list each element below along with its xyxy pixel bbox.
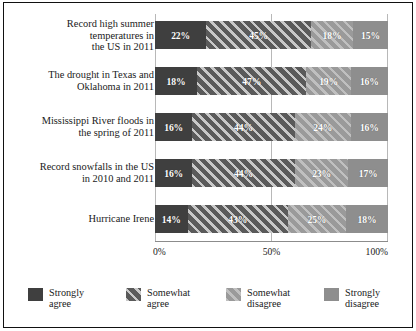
legend-swatch-icon: [324, 288, 339, 301]
bar-segment-value: 15%: [361, 30, 380, 41]
bar-segment[interactable]: 18%: [346, 205, 388, 233]
bar-segment[interactable]: 17%: [348, 159, 388, 187]
bar-row: The drought in Texas and Oklahoma in 201…: [0, 64, 416, 98]
bar-segment[interactable]: 44%: [192, 159, 295, 187]
bar-row: Mississippi River floods in the spring o…: [0, 110, 416, 144]
bar-segment-value: 14%: [162, 214, 181, 225]
bar-segment-value: 25%: [307, 214, 326, 225]
bar-segment-value: 16%: [360, 122, 379, 133]
bar-segment-value: 17%: [359, 168, 378, 179]
bar-segment[interactable]: 45%: [206, 21, 311, 49]
legend-item[interactable]: Strongly agree: [28, 287, 84, 310]
legend-label: Somewhat agree: [147, 287, 190, 310]
bar-segment-value: 19%: [319, 76, 338, 87]
figure-container: Record high summer temperatures in the U…: [0, 0, 416, 331]
bar-segment-value: 16%: [360, 76, 379, 87]
x-axis-line: [155, 241, 388, 242]
bar-segment[interactable]: 15%: [353, 21, 388, 49]
bar-segment-value: 18%: [358, 214, 377, 225]
bar-row-label: Record snowfalls in the US in 2010 and 2…: [8, 161, 154, 184]
x-tick-label: 0%: [153, 246, 166, 257]
legend-item[interactable]: Somewhat agree: [126, 287, 190, 310]
bar-row-label: Record high summer temperatures in the U…: [8, 18, 154, 53]
bar-segment[interactable]: 16%: [351, 113, 388, 141]
bar-track: 16%44%24%16%: [155, 113, 388, 141]
chart-plot-area: Record high summer temperatures in the U…: [0, 0, 416, 262]
bar-segment-value: 45%: [249, 30, 268, 41]
bar-row-label: Hurricane Irene: [8, 213, 154, 225]
legend-label: Somewhat disagree: [247, 287, 290, 310]
bar-segment[interactable]: 22%: [155, 21, 206, 49]
bar-segment[interactable]: 24%: [295, 113, 351, 141]
legend-swatch-icon: [28, 288, 43, 301]
bar-row-label: The drought in Texas and Oklahoma in 201…: [8, 69, 154, 92]
bar-segment-value: 18%: [323, 30, 342, 41]
bar-segment-value: 18%: [167, 76, 186, 87]
bar-segment[interactable]: 16%: [351, 67, 388, 95]
bar-segment[interactable]: 25%: [288, 205, 346, 233]
legend-label: Strongly disagree: [345, 287, 380, 310]
bar-track: 22%45%18%15%: [155, 21, 388, 49]
x-tick-label: 50%: [263, 246, 281, 257]
bar-segment-value: 47%: [242, 76, 261, 87]
bar-segment[interactable]: 18%: [155, 67, 197, 95]
bar-segment-value: 24%: [313, 122, 332, 133]
bar-segment-value: 44%: [234, 168, 253, 179]
bar-track: 18%47%19%16%: [155, 67, 388, 95]
bar-segment[interactable]: 44%: [192, 113, 295, 141]
legend-item[interactable]: Strongly disagree: [324, 287, 380, 310]
bar-segment-value: 23%: [312, 168, 331, 179]
legend-label: Strongly agree: [49, 287, 84, 310]
bar-row-label: Mississippi River floods in the spring o…: [8, 115, 154, 138]
bar-track: 16%44%23%17%: [155, 159, 388, 187]
legend-swatch-icon: [126, 288, 141, 301]
chart-legend: Strongly agreeSomewhat agreeSomewhat dis…: [0, 283, 416, 323]
bar-segment-value: 22%: [171, 30, 190, 41]
bar-track: 14%43%25%18%: [155, 205, 388, 233]
bar-segment-value: 44%: [234, 122, 253, 133]
bar-segment[interactable]: 16%: [155, 113, 192, 141]
bar-segment[interactable]: 43%: [188, 205, 288, 233]
bar-row: Hurricane Irene14%43%25%18%: [0, 202, 416, 236]
bar-segment[interactable]: 23%: [295, 159, 349, 187]
bar-segment-value: 43%: [228, 214, 247, 225]
bar-segment[interactable]: 18%: [311, 21, 353, 49]
x-axis-tick-labels: 0%50%100%: [0, 246, 416, 262]
bar-segment[interactable]: 14%: [155, 205, 188, 233]
bar-segment[interactable]: 16%: [155, 159, 192, 187]
bar-segment[interactable]: 47%: [197, 67, 307, 95]
bar-segment-value: 16%: [164, 122, 183, 133]
bar-segment[interactable]: 19%: [306, 67, 350, 95]
legend-swatch-icon: [226, 288, 241, 301]
legend-item[interactable]: Somewhat disagree: [226, 287, 290, 310]
x-tick-label: 100%: [366, 246, 388, 257]
bar-row: Record snowfalls in the US in 2010 and 2…: [0, 156, 416, 190]
bar-segment-value: 16%: [164, 168, 183, 179]
bar-row: Record high summer temperatures in the U…: [0, 18, 416, 52]
